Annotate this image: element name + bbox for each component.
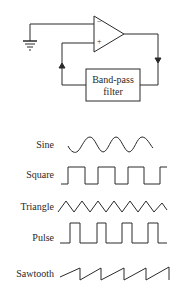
arrow-up-icon: [59, 63, 65, 68]
noninverting-sign: +: [97, 37, 102, 46]
ground-icon: [23, 24, 37, 50]
square-wave: [61, 167, 167, 184]
label-sine: Sine: [0, 139, 54, 150]
pulse-wave: [60, 223, 167, 243]
label-sawtooth: Sawtooth: [0, 268, 54, 279]
filter-label-line1: Band-pass: [86, 74, 140, 85]
arrow-down-icon: [155, 58, 161, 63]
label-pulse: Pulse: [0, 232, 54, 243]
label-square: Square: [0, 169, 54, 180]
sine-wave: [68, 137, 153, 152]
sawtooth-wave: [60, 267, 169, 280]
inverting-sign: −: [97, 17, 102, 26]
filter-label-line2: filter: [86, 86, 140, 97]
triangle-wave: [58, 201, 167, 212]
label-triangle: Triangle: [0, 201, 54, 212]
